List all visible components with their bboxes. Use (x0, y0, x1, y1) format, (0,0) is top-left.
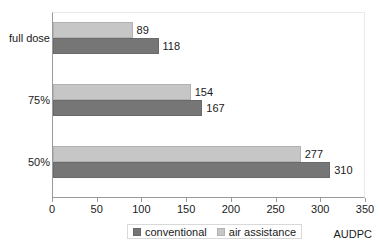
x-tick-mark (52, 198, 53, 202)
x-tick-mark (186, 198, 187, 202)
bar-air-assistance-75[interactable] (53, 84, 191, 100)
category-label-50: 50% (2, 156, 50, 168)
bar-value-air-assistance-full-dose: 89 (133, 22, 149, 38)
bar-group-75: 154 167 (53, 75, 364, 137)
bar-chart: full dose 75% 50% 89 118 154 167 277 310… (0, 0, 380, 252)
x-axis-title: AUDPC (333, 228, 372, 240)
bar-conventional-50[interactable] (53, 162, 330, 178)
bar-group-50: 277 310 (53, 137, 364, 199)
legend-label-conventional: conventional (145, 226, 207, 238)
bar-value-air-assistance-50: 277 (301, 146, 323, 162)
bar-value-conventional-75: 167 (202, 100, 224, 116)
bar-conventional-75[interactable] (53, 100, 202, 116)
legend-item-conventional[interactable]: conventional (133, 226, 207, 238)
x-tick-label: 0 (49, 203, 55, 215)
legend-label-air-assistance: air assistance (229, 226, 296, 238)
plot-area: 89 118 154 167 277 310 (52, 12, 365, 198)
x-tick-label: 100 (132, 203, 150, 215)
bar-group-full-dose: 89 118 (53, 13, 364, 75)
legend-item-air-assistance[interactable]: air assistance (217, 226, 296, 238)
x-tick-mark (365, 198, 366, 202)
category-label-75: 75% (2, 94, 50, 106)
legend-swatch-conventional (133, 228, 141, 236)
x-tick-mark (97, 198, 98, 202)
x-tick-label: 50 (91, 203, 103, 215)
x-tick-label: 200 (222, 203, 240, 215)
x-tick-mark (231, 198, 232, 202)
bar-air-assistance-50[interactable] (53, 146, 301, 162)
category-axis: full dose 75% 50% (0, 12, 50, 198)
x-tick-mark (141, 198, 142, 202)
bar-conventional-full-dose[interactable] (53, 38, 159, 54)
legend-swatch-air-assistance (217, 228, 225, 236)
x-tick-label: 300 (311, 203, 329, 215)
bar-value-conventional-full-dose: 118 (159, 38, 181, 54)
x-tick-mark (276, 198, 277, 202)
category-label-full-dose: full dose (2, 32, 50, 44)
bar-value-conventional-50: 310 (330, 162, 352, 178)
x-tick-mark (320, 198, 321, 202)
x-tick-label: 350 (356, 203, 374, 215)
bar-air-assistance-full-dose[interactable] (53, 22, 133, 38)
x-tick-label: 150 (177, 203, 195, 215)
chart-legend: conventional air assistance (127, 224, 302, 239)
x-tick-label: 250 (266, 203, 284, 215)
bar-value-air-assistance-75: 154 (191, 84, 213, 100)
